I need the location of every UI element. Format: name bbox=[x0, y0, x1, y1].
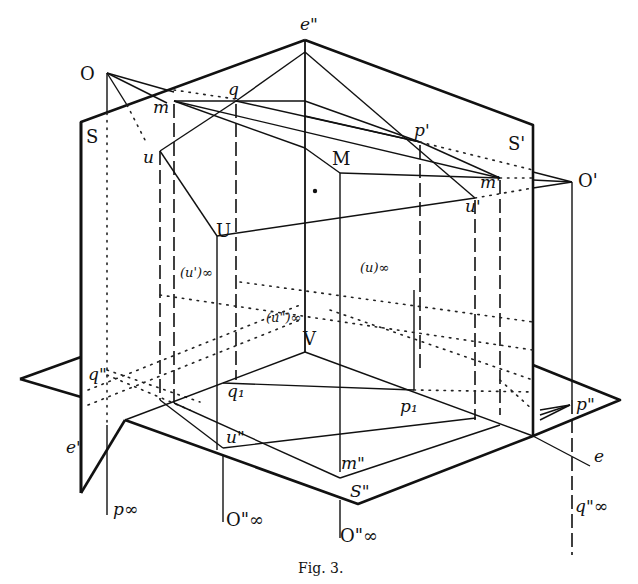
point-dot bbox=[313, 189, 317, 193]
figure-caption: Fig. 3. bbox=[298, 560, 343, 576]
label-o-double-prime-infinity-left: O"∞ bbox=[226, 509, 264, 530]
label-p-prime: p' bbox=[414, 120, 430, 140]
label-e: e bbox=[594, 446, 604, 466]
label-o: O bbox=[80, 63, 95, 84]
label-e-prime: e' bbox=[66, 437, 81, 457]
label-o-double-prime-infinity-center: O"∞ bbox=[340, 525, 378, 546]
label-u-prime-infinity: (u')∞ bbox=[180, 265, 213, 280]
label-u-prime: u' bbox=[465, 196, 481, 216]
label-u: u bbox=[143, 147, 154, 167]
dotted-guides bbox=[88, 113, 533, 425]
label-q-double-prime-infinity: q"∞ bbox=[575, 496, 608, 516]
label-q-double-prime: q" bbox=[88, 364, 107, 384]
label-m-prime: m' bbox=[480, 172, 501, 192]
label-s-prime: S' bbox=[508, 133, 525, 154]
plane-s-prime bbox=[305, 40, 533, 436]
label-p-infinity: p∞ bbox=[113, 499, 138, 519]
label-e-double-prime: e" bbox=[300, 14, 318, 34]
label-v: V bbox=[302, 328, 317, 349]
dashed-verticals bbox=[160, 104, 500, 420]
label-s: S bbox=[86, 126, 98, 147]
label-q1: q₁ bbox=[227, 381, 245, 401]
label-q: q bbox=[228, 79, 239, 99]
label-s-double-prime: S" bbox=[350, 481, 369, 501]
label-m-upper: M bbox=[332, 148, 350, 169]
label-u-infinity: (u)∞ bbox=[360, 260, 389, 275]
label-m-double-prime: m" bbox=[341, 453, 365, 473]
label-p1: p₁ bbox=[400, 396, 418, 416]
projection-figure: O e" m q p' S S' O' u M m' u' U (u')∞ (u… bbox=[0, 0, 638, 584]
label-u-double-prime: u" bbox=[226, 427, 245, 447]
label-m: m bbox=[153, 97, 169, 117]
label-p-double-prime: p" bbox=[576, 394, 595, 414]
label-o-prime: O' bbox=[578, 170, 598, 191]
label-u-double-prime-infinity: (u")∞ bbox=[266, 310, 301, 325]
projectors-from-o-prime bbox=[533, 172, 572, 555]
label-u-upper: U bbox=[216, 220, 231, 241]
